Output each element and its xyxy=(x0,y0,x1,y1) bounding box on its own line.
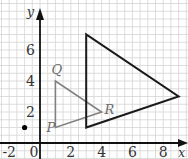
svg-text:8: 8 xyxy=(159,144,168,159)
center-of-enlargement-point xyxy=(22,125,27,130)
svg-text:6: 6 xyxy=(26,42,35,58)
vertex-label-r: R xyxy=(104,102,115,117)
svg-text:2: 2 xyxy=(66,144,75,159)
svg-text:6: 6 xyxy=(128,144,137,159)
svg-text:x: x xyxy=(178,146,185,159)
svg-text:2: 2 xyxy=(26,104,35,120)
svg-text:4: 4 xyxy=(26,73,35,89)
coordinate-diagram: -202468246xy PQR xyxy=(0,0,188,159)
plot-svg: -202468246xy PQR xyxy=(0,0,188,159)
svg-text:4: 4 xyxy=(97,144,106,159)
vertex-label-p: P xyxy=(45,120,55,135)
svg-text:-2: -2 xyxy=(2,144,16,159)
svg-text:0: 0 xyxy=(30,144,39,159)
vertex-label-q: Q xyxy=(51,62,62,77)
svg-text:y: y xyxy=(26,4,35,19)
